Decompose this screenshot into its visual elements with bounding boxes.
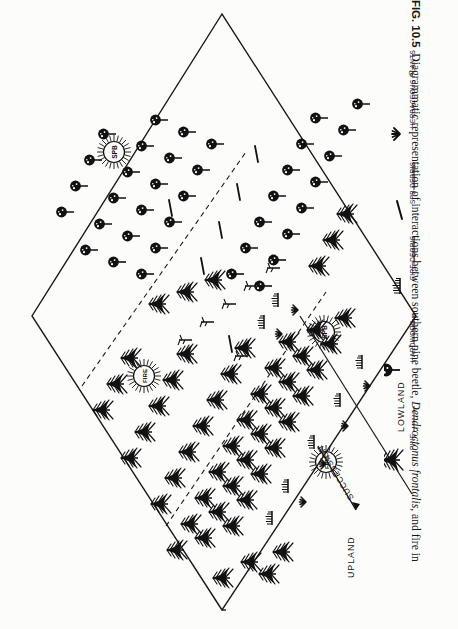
hardwood-stand-lowland bbox=[56, 99, 370, 292]
legend-icon-herbaceous-plants bbox=[392, 128, 400, 140]
legend-icon-pine bbox=[384, 449, 403, 471]
block-internal-edges bbox=[32, 152, 416, 526]
event-label: SPB bbox=[111, 145, 118, 159]
event-label: FIRE bbox=[141, 369, 148, 383]
herbaceous-group-upland bbox=[300, 381, 371, 507]
pine-regeneration-group bbox=[212, 542, 293, 588]
event-label: SPB bbox=[321, 325, 328, 339]
figure-number: FIG. 10.5 bbox=[410, 0, 422, 47]
legend-icon-hardwood bbox=[384, 364, 400, 377]
pine-stand-lowland bbox=[148, 204, 357, 314]
caption-lead: Diagrammatic representation of interacti… bbox=[409, 53, 422, 401]
figure-page: SPB SPB FIRE FIRE bbox=[0, 0, 458, 629]
event-marker-fire-1: FIRE bbox=[127, 359, 161, 393]
zone-label-upland: UPLAND bbox=[346, 536, 356, 578]
event-markers-group: SPB SPB FIRE FIRE bbox=[97, 135, 343, 479]
landscape-block-diagram: SPB SPB FIRE FIRE bbox=[26, 2, 426, 622]
block-diagram-rotated: SPB SPB FIRE FIRE bbox=[26, 2, 426, 622]
legend-icon-fire-debris bbox=[393, 278, 401, 294]
figure-caption: FIG. 10.5 Diagrammatic representation of… bbox=[402, 0, 430, 620]
lowland-vegetation-group bbox=[56, 99, 370, 345]
caption-tail: , and fire in bbox=[409, 508, 422, 561]
event-marker-spb-2: SPB bbox=[307, 315, 341, 349]
spb-debris-group bbox=[169, 146, 258, 274]
species-name: Dendroctonus frontalis bbox=[409, 401, 422, 508]
event-marker-spb-1: SPB bbox=[97, 135, 131, 169]
